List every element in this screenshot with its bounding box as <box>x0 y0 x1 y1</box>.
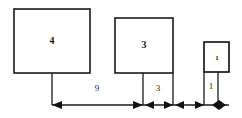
technical-drawing: 4 3 1 9 3 1 <box>0 0 242 118</box>
dimension-label-1: 1 <box>209 81 214 91</box>
diagram-canvas: 4 3 1 9 3 1 <box>0 0 242 118</box>
large-square-label: 4 <box>50 35 55 46</box>
arrowhead-left-9 <box>52 101 62 109</box>
arrowhead-right-3 <box>164 101 173 109</box>
dimension-label-3: 3 <box>156 83 161 93</box>
arrowhead-left-gap <box>175 101 184 109</box>
arrowhead-right-1 <box>212 100 226 110</box>
small-square-label: 1 <box>215 54 219 62</box>
dimension-label-9: 9 <box>95 83 100 93</box>
medium-square-label: 3 <box>142 39 147 50</box>
arrowhead-left-1 <box>195 101 204 109</box>
arrowhead-right-9 <box>133 101 143 109</box>
arrowhead-left-3 <box>145 101 154 109</box>
